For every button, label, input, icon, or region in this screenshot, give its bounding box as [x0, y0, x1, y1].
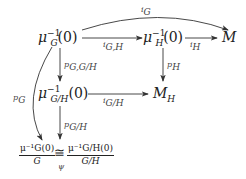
label-pGslashH: pG/H [64, 121, 87, 129]
isomorphism-symbol: ≅ [54, 146, 65, 159]
label-iGH: iG,H [103, 41, 123, 49]
quotient-right: μ⁻¹G/H(0) G/H [67, 144, 114, 167]
label-iG: iG [141, 6, 151, 14]
node-M-H: MH [153, 86, 175, 100]
label-iGslashH: iG/H [103, 97, 124, 105]
node-mu-H-inverse: μ−1H(0) [143, 30, 183, 44]
label-pH: pH [167, 61, 180, 69]
node-mu-G-inverse: μ−1G(0) [38, 30, 77, 44]
label-pG: pG [13, 94, 25, 102]
label-psi: ψ [58, 163, 64, 171]
node-mu-GH-inverse: μ−1G/H(0) [38, 86, 88, 100]
node-M: M [222, 30, 236, 44]
label-pGGH: pG,G/H [64, 61, 97, 69]
quotient-left: μ⁻¹G(0) G [19, 144, 55, 167]
label-iH: iH [190, 41, 200, 49]
